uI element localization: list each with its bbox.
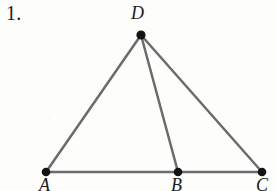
geometry-diagram	[0, 0, 276, 191]
vertex-point-D	[136, 30, 145, 39]
vertex-label-c: C	[256, 176, 268, 191]
vertex-label-b: B	[171, 176, 182, 191]
vertex-label-d: D	[131, 4, 144, 22]
vertex-label-a: A	[39, 176, 50, 191]
segment-DA	[46, 35, 141, 172]
problem-figure-page: 1. D A B C	[0, 0, 276, 191]
